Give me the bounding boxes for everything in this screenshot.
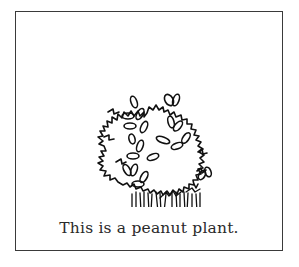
figure-caption: This is a peanut plant.	[16, 219, 282, 237]
figure-card: This is a peanut plant.	[15, 11, 283, 251]
peanut-plant-icon	[78, 42, 238, 207]
